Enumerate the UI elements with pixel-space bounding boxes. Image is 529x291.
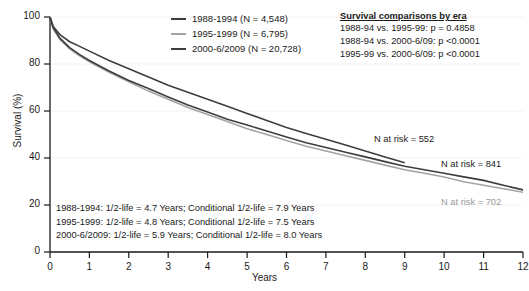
halflife-row-2000-2009: 2000-6/2009: 1/2-life = 5.9 Years; Condi…: [56, 230, 322, 244]
legend-item-1995-1999: 1995-1999 (N = 6,795): [171, 26, 301, 41]
x-tick-10: 10: [432, 261, 456, 272]
x-tick-6: 6: [275, 261, 299, 272]
comparison-row-3: 1995-99 vs. 2000-6/09: p <0.0001: [340, 49, 480, 62]
legend-label-2000-2009: 2000-6/2009 (N = 20,728): [192, 43, 301, 54]
y-tick-80: 80: [14, 57, 40, 68]
comparison-row-1: 1988-94 vs. 1995-99: p = 0.4858: [340, 23, 480, 36]
n-at-risk-label-1988-1994: N at risk = 552: [374, 134, 434, 144]
legend: 1988-1994 (N = 4,548) 1995-1999 (N = 6,7…: [171, 11, 301, 56]
x-tick-4: 4: [196, 261, 220, 272]
legend-item-1988-1994: 1988-1994 (N = 4,548): [171, 11, 301, 26]
x-tick-0: 0: [38, 261, 62, 272]
survival-chart: 100 80 60 40 20 0 0 1 2 3 4 5 6 7 8 9 10…: [0, 0, 529, 291]
legend-item-2000-2009: 2000-6/2009 (N = 20,728): [171, 41, 301, 56]
halflife-row-1988-1994: 1988-1994: 1/2-life = 4.7 Years; Conditi…: [56, 203, 322, 217]
x-tick-9: 9: [393, 261, 417, 272]
x-tick-11: 11: [472, 261, 496, 272]
x-tick-7: 7: [314, 261, 338, 272]
x-tick-12: 12: [511, 261, 529, 272]
halflife-box: 1988-1994: 1/2-life = 4.7 Years; Conditi…: [56, 203, 322, 244]
n-at-risk-label-2000-2009: N at risk = 841: [441, 159, 501, 169]
x-ticks: [50, 252, 523, 258]
survival-comparisons-title: Survival comparisons by era: [340, 11, 480, 21]
legend-swatch-2000-2009: [171, 48, 186, 50]
x-tick-3: 3: [156, 261, 180, 272]
y-tick-100: 100: [14, 10, 40, 21]
legend-label-1988-1994: 1988-1994 (N = 4,548): [192, 13, 288, 24]
survival-comparisons-box: Survival comparisons by era 1988-94 vs. …: [340, 11, 480, 62]
legend-swatch-1988-1994: [171, 18, 186, 20]
n-at-risk-label-1995-1999: N at risk = 702: [441, 197, 501, 207]
x-tick-2: 2: [117, 261, 141, 272]
y-tick-20: 20: [14, 198, 40, 209]
x-axis-title: Years: [0, 272, 529, 283]
y-axis-title: Survival (%): [12, 81, 23, 161]
x-tick-5: 5: [235, 261, 259, 272]
legend-label-1995-1999: 1995-1999 (N = 6,795): [192, 28, 288, 39]
legend-swatch-1995-1999: [171, 33, 186, 35]
x-tick-8: 8: [353, 261, 377, 272]
y-ticks: [44, 17, 50, 252]
y-tick-0: 0: [14, 245, 40, 256]
halflife-row-1995-1999: 1995-1999: 1/2-life = 4.8 Years; Conditi…: [56, 217, 322, 231]
x-tick-1: 1: [77, 261, 101, 272]
comparison-row-2: 1988-94 vs. 2000-6/09: p <0.0001: [340, 36, 480, 49]
